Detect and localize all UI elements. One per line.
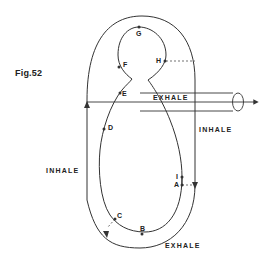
point-f-label: F (123, 61, 127, 68)
figure-label: Fig.52 (15, 68, 42, 78)
point-g-label: G (136, 30, 141, 37)
point-e-label: E (122, 90, 127, 97)
inhale-left-label: INHALE (46, 167, 79, 174)
point-d-label: D (108, 124, 113, 131)
exhale-bottom-label: EXHALE (165, 242, 201, 249)
point-b-label: B (140, 225, 145, 232)
inhale-right-label: INHALE (199, 126, 232, 133)
exhale-top-label: EXHALE (153, 94, 189, 101)
point-h-label: H (156, 57, 161, 64)
point-c-label: C (117, 212, 122, 219)
point-a-label: A (174, 181, 179, 188)
point-i-label: I (176, 173, 178, 180)
